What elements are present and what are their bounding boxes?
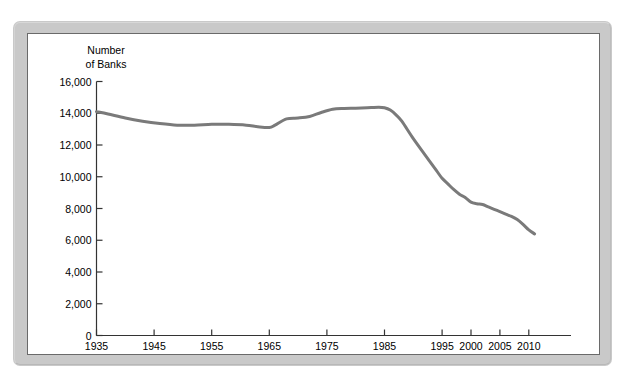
- chart-panel: Number of Banks 02,0004,0006,0008,00010,…: [27, 33, 600, 355]
- y-axis-tick-label: 0: [34, 330, 92, 341]
- x-axis-tick-label: 2000: [459, 341, 482, 352]
- x-axis-tick-label: 1995: [430, 341, 453, 352]
- y-axis-tick-label: 16,000: [34, 76, 92, 87]
- x-axis-tick-label: 2005: [488, 341, 511, 352]
- x-axis-tick-label: 1965: [258, 341, 281, 352]
- x-axis-tick-label: 1985: [373, 341, 396, 352]
- x-axis-tick-label: 1935: [85, 341, 108, 352]
- plot-surface: Number of Banks 02,0004,0006,0008,00010,…: [28, 34, 601, 356]
- y-axis-tick-label: 2,000: [34, 298, 92, 309]
- y-axis-tick-label: 12,000: [34, 140, 92, 151]
- y-axis-tick-label: 10,000: [34, 171, 92, 182]
- y-axis-title: Number of Banks: [58, 44, 154, 71]
- x-axis-tick-label: 2010: [517, 341, 540, 352]
- x-axis-tick-marks: [97, 330, 529, 336]
- figure-root: Number of Banks 02,0004,0006,0008,00010,…: [0, 0, 627, 378]
- x-axis-tick-label: 1975: [315, 341, 338, 352]
- y-axis-title-line-2: of Banks: [58, 58, 154, 72]
- y-axis-title-line-1: Number: [58, 44, 154, 58]
- y-axis-tick-label: 4,000: [34, 267, 92, 278]
- x-axis-tick-label: 1955: [200, 341, 223, 352]
- chart-svg: [28, 34, 601, 356]
- y-axis-tick-label: 6,000: [34, 235, 92, 246]
- x-axis-tick-label: 1945: [142, 341, 165, 352]
- y-axis-tick-label: 8,000: [34, 203, 92, 214]
- banks-series-line: [97, 107, 535, 234]
- y-axis-tick-label: 14,000: [34, 108, 92, 119]
- y-axis-tick-marks: [97, 82, 103, 336]
